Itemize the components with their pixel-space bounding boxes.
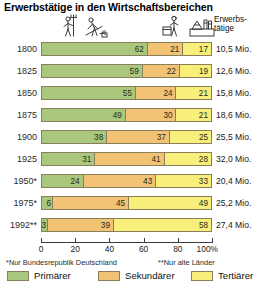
factory-building-icon xyxy=(188,15,216,39)
bar-segment-prim: 59 xyxy=(42,65,142,77)
axis-tick xyxy=(75,238,76,243)
stacked-bar: 592219 xyxy=(41,64,212,78)
segment-value: 21 xyxy=(199,111,211,120)
stacked-bar: 33958 xyxy=(41,218,212,232)
legend-label-tertiaer: Tertiärer xyxy=(218,270,253,281)
segment-value: 25 xyxy=(199,133,211,142)
bar-segment-prim: 62 xyxy=(42,43,147,55)
axis-tick-label: 0 xyxy=(39,244,44,254)
bar-segment-sek: 24 xyxy=(135,87,176,99)
bar-segment-sek: 41 xyxy=(94,153,163,165)
chart-row: 1950*24433320,4 Mio. xyxy=(41,172,212,194)
segment-value: 21 xyxy=(199,89,211,98)
stacked-bar: 383725 xyxy=(41,130,212,144)
segment-value: 33 xyxy=(199,177,211,186)
segment-value: 24 xyxy=(163,89,175,98)
year-label: 1850 xyxy=(0,86,37,100)
segment-value: 21 xyxy=(170,45,182,54)
total-label: 15,8 Mio. xyxy=(216,86,251,100)
legend-swatch-tertiaer xyxy=(191,271,213,281)
segment-value: 39 xyxy=(101,221,113,230)
segment-value: 62 xyxy=(135,45,147,54)
bar-segment-ter: 25 xyxy=(169,131,211,143)
bar-segment-sek: 45 xyxy=(52,197,128,209)
chart-row: 180062211710,5 Mio. xyxy=(41,40,212,62)
segment-value: 59 xyxy=(130,67,142,76)
segment-value: 41 xyxy=(152,155,164,164)
segment-value: 31 xyxy=(82,155,94,164)
total-label: 27,4 Mio. xyxy=(216,218,251,232)
axis-tick-label: 80 xyxy=(173,244,182,254)
employed-persons-header: Erwerbs- tätige xyxy=(214,15,247,34)
total-label: 12,6 Mio. xyxy=(216,64,251,78)
bar-segment-prim: 6 xyxy=(42,197,52,209)
bar-segment-ter: 58 xyxy=(113,219,211,231)
total-label: 18,6 Mio. xyxy=(216,108,251,122)
bar-segment-prim: 38 xyxy=(42,131,106,143)
year-label: 1800 xyxy=(0,42,37,56)
axis-tick-label: 60 xyxy=(139,244,148,254)
chart-row: 190038372525,5 Mio. xyxy=(41,128,212,150)
stacked-bar: 493021 xyxy=(41,108,212,122)
chart-row: 1975*6454925,2 Mio. xyxy=(41,194,212,216)
employed-persons-header-line1: Erwerbs- xyxy=(214,15,247,24)
x-axis: 020406080100% xyxy=(41,238,212,258)
legend-swatch-sekundaer xyxy=(98,271,120,281)
legend-swatch-primaer xyxy=(7,271,29,281)
total-label: 25,2 Mio. xyxy=(216,196,251,210)
bar-segment-sek: 22 xyxy=(142,65,179,77)
segment-value: 43 xyxy=(143,177,155,186)
bar-segment-sek: 37 xyxy=(106,131,169,143)
x-axis-line xyxy=(41,242,212,243)
bar-segment-ter: 21 xyxy=(175,87,210,99)
year-label: 1925 xyxy=(0,152,37,166)
year-label: 1992** xyxy=(0,218,37,232)
total-label: 32,0 Mio. xyxy=(216,152,251,166)
axis-tick xyxy=(109,238,110,243)
legend-item-sekundaer: Sekundärer xyxy=(98,270,175,281)
stacked-bar: 314128 xyxy=(41,152,212,166)
stacked-bar: 64549 xyxy=(41,196,212,210)
axis-tick-label: 100% xyxy=(197,244,218,254)
year-label: 1825 xyxy=(0,64,37,78)
employed-persons-header-line2: tätige xyxy=(214,24,247,33)
bar-segment-ter: 21 xyxy=(175,109,210,121)
total-label: 25,5 Mio. xyxy=(216,130,251,144)
footnote-b: **Nur alte Länder xyxy=(158,258,215,267)
segment-value: 22 xyxy=(167,67,179,76)
year-label: 1875 xyxy=(0,108,37,122)
axis-tick xyxy=(178,238,179,243)
bar-segment-ter: 28 xyxy=(164,153,211,165)
total-label: 10,5 Mio. xyxy=(216,42,251,56)
segment-value: 45 xyxy=(116,199,128,208)
chart-row: 1992**3395827,4 Mio. xyxy=(41,216,212,238)
year-label: 1900 xyxy=(0,130,37,144)
bar-segment-ter: 49 xyxy=(128,197,211,209)
bar-segment-ter: 17 xyxy=(182,43,211,55)
legend-label-sekundaer: Sekundärer xyxy=(125,270,175,281)
chart-row: 187549302118,6 Mio. xyxy=(41,106,212,128)
bars-area: 180062211710,5 Mio.182559221912,6 Mio.18… xyxy=(41,40,212,238)
bar-segment-prim: 24 xyxy=(42,175,83,187)
year-label: 1975* xyxy=(0,196,37,210)
bar-segment-prim: 31 xyxy=(42,153,94,165)
axis-tick-label: 20 xyxy=(71,244,80,254)
farmer-with-pitchfork-icon xyxy=(56,14,82,40)
bar-segment-sek: 43 xyxy=(83,175,156,187)
bar-segment-sek: 21 xyxy=(147,43,182,55)
chart-row: 192531412832,0 Mio. xyxy=(41,150,212,172)
bar-segment-prim: 49 xyxy=(42,109,125,121)
year-label: 1950* xyxy=(0,174,37,188)
axis-tick-label: 40 xyxy=(105,244,114,254)
segment-value: 55 xyxy=(123,89,135,98)
bar-segment-ter: 19 xyxy=(179,65,211,77)
chart-row: 182559221912,6 Mio. xyxy=(41,62,212,84)
legend-item-tertiaer: Tertiärer xyxy=(191,270,253,281)
segment-value: 30 xyxy=(163,111,175,120)
segment-value: 17 xyxy=(199,45,211,54)
footnote-a: *Nur Bundesrepublik Deutschland xyxy=(6,258,117,267)
farmer-harvesting-icon xyxy=(82,16,112,40)
segment-value: 19 xyxy=(199,67,211,76)
legend-label-primaer: Primärer xyxy=(34,270,71,281)
segment-value: 24 xyxy=(70,177,82,186)
